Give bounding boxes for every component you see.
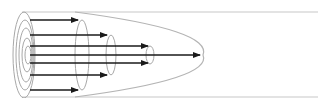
pipe-flow-svg	[0, 0, 331, 98]
laminar-flow-diagram: Laminar flow velocity profile in a pipe	[0, 0, 331, 98]
velocity-arrows	[30, 20, 200, 90]
